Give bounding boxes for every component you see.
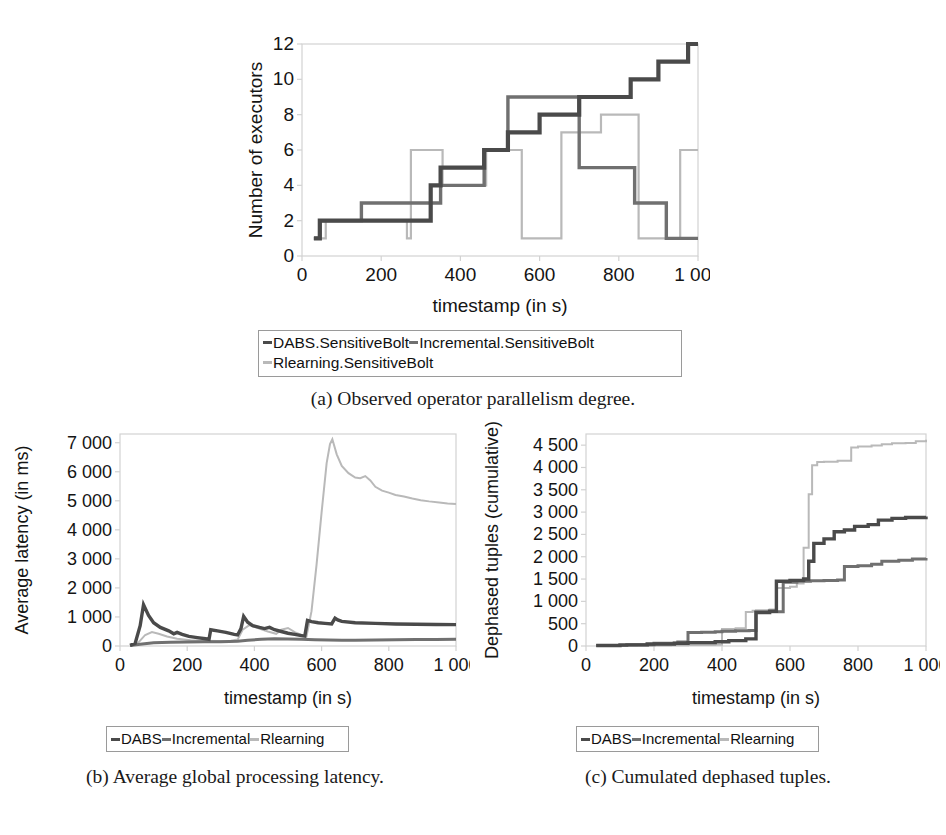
legend-swatch-icon <box>409 341 418 344</box>
x-tick-label: 800 <box>603 264 635 285</box>
legend-swatch-icon <box>263 361 272 364</box>
chart-svg-b: 02004006008001 00001 0002 0003 0004 0005… <box>8 420 470 720</box>
y-tick-label: 2 000 <box>533 547 578 567</box>
x-tick-label: 0 <box>581 655 591 675</box>
series-line-rlearning <box>596 440 926 646</box>
y-tick-label: 12 <box>273 33 294 54</box>
y-tick-label: 500 <box>548 614 578 634</box>
x-tick-label: 600 <box>524 264 556 285</box>
legend-row: Rlearning.SensitiveBolt <box>263 353 677 373</box>
legend-swatch-icon <box>111 738 120 741</box>
y-tick-label: 4 500 <box>533 435 578 455</box>
chart-panel-a: 02004006008001 000024681012timestamp (in… <box>240 28 710 328</box>
x-tick-label: 600 <box>307 655 337 675</box>
legend-label: DABS <box>121 730 162 747</box>
legend-entry-dabs: DABS <box>111 729 162 748</box>
legend-label: Incremental.SensitiveBolt <box>419 334 594 351</box>
legend-swatch-icon <box>162 738 171 741</box>
plot-frame <box>120 434 456 646</box>
legend-row: DABS.SensitiveBoltIncremental.SensitiveB… <box>263 333 677 353</box>
y-tick-label: 1 000 <box>533 591 578 611</box>
y-tick-label: 3 000 <box>533 502 578 522</box>
x-tick-label: 200 <box>365 264 397 285</box>
caption-a: (a) Observed operator parallelism degree… <box>0 388 946 410</box>
legend-entry-rlearning: Rlearning <box>250 729 324 748</box>
legend-swatch-icon <box>581 738 590 741</box>
y-tick-label: 3 500 <box>533 480 578 500</box>
caption-c: (c) Cumulated dephased tuples. <box>470 766 946 788</box>
legend-swatch-icon <box>632 738 641 741</box>
series-line-incremental <box>314 97 698 238</box>
y-tick-label: 6 <box>283 139 294 160</box>
y-axis-title: Average latency (in ms) <box>12 446 32 635</box>
x-tick-label: 0 <box>115 655 125 675</box>
y-tick-label: 1 000 <box>67 607 112 627</box>
y-tick-label: 2 <box>283 210 294 231</box>
legend-row: DABSIncrementalRlearning <box>111 729 344 748</box>
legend-label: Rlearning.SensitiveBolt <box>273 354 433 371</box>
y-tick-label: 4 000 <box>533 457 578 477</box>
x-tick-label: 0 <box>297 264 308 285</box>
y-tick-label: 6 000 <box>67 462 112 482</box>
legend-label: DABS.SensitiveBolt <box>273 334 409 351</box>
y-tick-label: 2 000 <box>67 578 112 598</box>
y-tick-label: 4 <box>283 174 294 195</box>
y-tick-label: 3 000 <box>67 549 112 569</box>
legend-label: Incremental <box>172 730 250 747</box>
chart-svg-c: 02004006008001 00005001 0001 5002 0002 5… <box>478 420 940 720</box>
x-tick-label: 1 000 <box>433 655 470 675</box>
chart-panel-c: 02004006008001 00005001 0001 5002 0002 5… <box>478 420 940 720</box>
legend-entry-dabs: DABS <box>581 729 632 748</box>
x-tick-label: 800 <box>374 655 404 675</box>
y-tick-label: 4 000 <box>67 520 112 540</box>
caption-b: (b) Average global processing latency. <box>0 766 470 788</box>
chart-svg-a: 02004006008001 000024681012timestamp (in… <box>240 28 710 328</box>
x-tick-label: 400 <box>707 655 737 675</box>
x-tick-label: 200 <box>639 655 669 675</box>
legend-swatch-icon <box>250 738 259 741</box>
x-tick-label: 600 <box>775 655 805 675</box>
y-tick-label: 0 <box>102 636 112 656</box>
x-axis-title: timestamp (in s) <box>432 295 567 316</box>
y-tick-label: 8 <box>283 104 294 125</box>
series-line-dabs <box>314 44 698 238</box>
legend-label: Rlearning <box>730 730 794 747</box>
chart-panel-b: 02004006008001 00001 0002 0003 0004 0005… <box>8 420 470 720</box>
figure-container: 02004006008001 000024681012timestamp (in… <box>0 0 946 835</box>
series-line-incremental <box>596 558 926 645</box>
legend-panel-a: DABS.SensitiveBoltIncremental.SensitiveB… <box>258 330 682 377</box>
legend-label: Rlearning <box>260 730 324 747</box>
legend-entry-incremental: Incremental <box>632 729 720 748</box>
y-axis-title: Dephased tuples (cumulative) <box>482 421 502 659</box>
y-tick-label: 10 <box>273 68 294 89</box>
x-tick-label: 200 <box>172 655 202 675</box>
legend-swatch-icon <box>263 341 272 344</box>
legend-panel-c: DABSIncrementalRlearning <box>576 726 819 752</box>
x-tick-label: 400 <box>445 264 477 285</box>
series-line-rlearning <box>130 439 456 645</box>
legend-swatch-icon <box>720 738 729 741</box>
x-tick-label: 400 <box>239 655 269 675</box>
legend-entry-rlearning: Rlearning.SensitiveBolt <box>263 353 433 373</box>
legend-entry-rlearning: Rlearning <box>720 729 794 748</box>
legend-row: DABSIncrementalRlearning <box>581 729 814 748</box>
legend-panel-b: DABSIncrementalRlearning <box>106 726 349 752</box>
y-tick-label: 2 500 <box>533 524 578 544</box>
x-tick-label: 1 000 <box>903 655 940 675</box>
x-tick-label: 1 000 <box>674 264 710 285</box>
y-tick-label: 0 <box>283 245 294 266</box>
legend-entry-incremental: Incremental <box>162 729 250 748</box>
y-tick-label: 0 <box>568 636 578 656</box>
x-axis-title: timestamp (in s) <box>224 688 352 708</box>
y-tick-label: 1 500 <box>533 569 578 589</box>
legend-label: DABS <box>591 730 632 747</box>
x-tick-label: 800 <box>843 655 873 675</box>
x-axis-title: timestamp (in s) <box>692 688 820 708</box>
legend-label: Incremental <box>642 730 720 747</box>
y-tick-label: 5 000 <box>67 491 112 511</box>
y-tick-label: 7 000 <box>67 433 112 453</box>
y-axis-title: Number of executors <box>245 62 266 238</box>
legend-entry-incremental: Incremental.SensitiveBolt <box>409 333 594 353</box>
legend-entry-dabs: DABS.SensitiveBolt <box>263 333 409 353</box>
series-line-dabs <box>596 517 926 646</box>
